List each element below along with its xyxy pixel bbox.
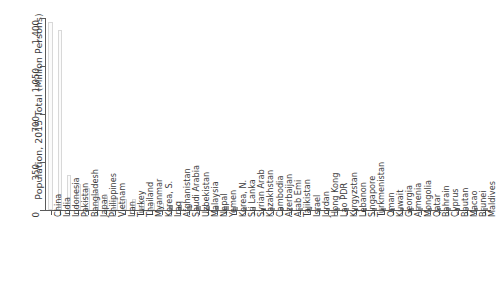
- bar: [58, 30, 63, 210]
- x-tick-label: Japan: [100, 194, 108, 217]
- x-tick-label: Israel: [313, 195, 321, 217]
- x-tick-label: Tajikistan: [303, 179, 311, 217]
- x-tick-label: Uzbekistan: [202, 172, 210, 217]
- x-tick-label: Kazakhstan: [266, 170, 274, 217]
- x-tick-label: Bangladesh: [91, 169, 99, 217]
- y-tick-label-wrap: 700: [0, 109, 38, 119]
- x-tick-label: Korea, S.: [165, 181, 173, 217]
- x-tick-label: Bhutan: [461, 188, 469, 217]
- x-tick-label: Maldives: [488, 181, 496, 217]
- x-tick-label: Brunei: [479, 190, 487, 217]
- x-tick-label: Jordan: [322, 191, 330, 217]
- y-tick-mark: [40, 66, 45, 67]
- y-tick-mark: [40, 210, 45, 211]
- x-tick-label: Nepal: [220, 193, 228, 217]
- x-tick-label: Mongolia: [424, 180, 432, 217]
- y-tick-label-wrap: 1,050: [0, 61, 38, 71]
- x-tick-mark: [51, 211, 52, 215]
- x-tick-label: China: [54, 194, 62, 217]
- x-tick-label: Arab Emi: [294, 180, 302, 217]
- x-tick-label: Sri Lanka: [248, 179, 256, 217]
- x-tick-label: Korea, N.: [239, 180, 247, 217]
- x-tick-label: Armenia: [414, 183, 422, 217]
- x-tick-label: India: [63, 197, 71, 217]
- x-tick-label: Iran: [128, 201, 136, 217]
- x-tick-label: Thailand: [146, 182, 154, 217]
- y-tick-label: 1,050: [31, 68, 41, 93]
- x-tick-label: Afghanistan: [183, 168, 191, 217]
- x-tick-label: Pakistan: [81, 183, 89, 217]
- y-tick-label-wrap: 1,400: [0, 13, 38, 23]
- y-tick-label-wrap: 0: [0, 205, 38, 215]
- x-tick-label: Hong Kong: [331, 172, 339, 217]
- x-tick-label: Saudi Arabia: [192, 165, 200, 217]
- y-tick-label-wrap: 350: [0, 157, 38, 167]
- x-tick-label: Myanmar: [155, 179, 163, 217]
- x-tick-label: Oman: [387, 192, 395, 217]
- x-tick-label: Vietnam: [118, 183, 126, 217]
- y-tick-mark: [40, 162, 45, 163]
- x-tick-label: Macao: [470, 190, 478, 217]
- x-tick-label: Lao PDR: [340, 183, 348, 217]
- x-tick-label: Yemen: [229, 190, 237, 217]
- x-tick-label: Singapore: [368, 176, 376, 217]
- x-tick-label: Azerbaijan: [285, 174, 293, 217]
- x-tick-label: Cyprus: [451, 188, 459, 217]
- x-tick-label: Georgia: [405, 185, 413, 217]
- y-tick-label: 0: [31, 212, 41, 217]
- y-tick-label: 1,400: [31, 20, 41, 45]
- chart-figure: Population, 2015 Total (Million Persons)…: [0, 0, 498, 294]
- y-tick-label: 700: [31, 116, 41, 132]
- x-tick-label: Malaysia: [211, 181, 219, 217]
- x-tick-label: Syrian Arab: [257, 169, 265, 217]
- y-tick-mark: [40, 18, 45, 19]
- x-tick-label: Iraq: [174, 201, 182, 217]
- x-tick-label: Cambodia: [276, 176, 284, 217]
- x-tick-label: Qatar: [433, 194, 441, 217]
- bar: [48, 22, 53, 210]
- x-tick-label: Turkey: [137, 190, 145, 217]
- x-tick-label: Turkmenistan: [377, 162, 385, 217]
- x-tick-label: Bahrain: [442, 185, 450, 217]
- y-tick-label: 350: [31, 164, 41, 180]
- x-tick-label: Philippines: [109, 173, 117, 217]
- x-tick-label: Kuwait: [396, 190, 404, 217]
- y-tick-mark: [40, 114, 45, 115]
- x-tick-label: Kyrgyzstan: [350, 172, 358, 217]
- x-tick-label: Lebanon: [359, 182, 367, 217]
- x-tick-label: Indonesia: [72, 177, 80, 217]
